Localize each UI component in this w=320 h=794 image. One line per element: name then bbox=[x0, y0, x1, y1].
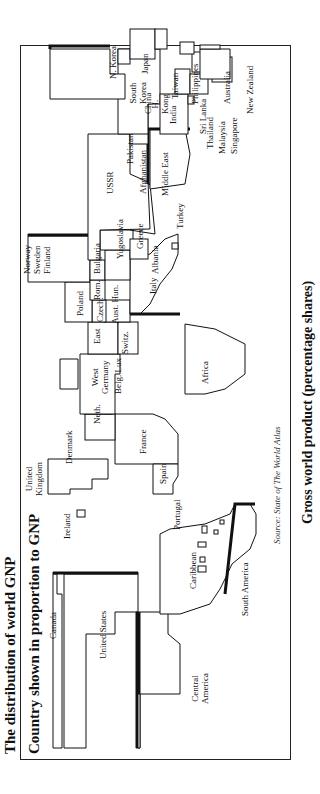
source-note: Source: State of The World Atlas bbox=[272, 427, 282, 544]
label-west-germany: WestGermany bbox=[90, 361, 110, 395]
region-caribbean-1 bbox=[198, 566, 206, 572]
region-philippines bbox=[180, 42, 194, 54]
figure-caption: Gross world product (percentage shares) bbox=[300, 281, 316, 524]
label-canada: Canada bbox=[48, 612, 58, 639]
label-ussr: USSR bbox=[105, 171, 115, 194]
label-taiwan: Taiwan bbox=[170, 73, 180, 99]
label-yugoslavia: Yugoslavia bbox=[115, 219, 125, 259]
label-denmark: Denmark bbox=[64, 431, 74, 465]
label-belg-lux: Belg. Lux bbox=[113, 358, 123, 394]
label-greece: Greece bbox=[135, 224, 145, 249]
region-denmark bbox=[60, 359, 78, 389]
region-h-kong bbox=[155, 29, 167, 49]
cartogram-figure: The distribution of world GNP Country sh… bbox=[0, 0, 320, 794]
label-italy: Italy bbox=[148, 278, 158, 295]
region-uk bbox=[48, 459, 108, 494]
label-poland: Poland bbox=[75, 291, 85, 316]
label-turkey: Turkey bbox=[175, 203, 185, 229]
world-gnp-cartogram bbox=[0, 0, 320, 794]
label-malaysia: Malaysia bbox=[217, 121, 227, 154]
label-australia: Australia bbox=[222, 71, 232, 104]
label-rom: Rom. bbox=[92, 280, 102, 300]
label-aust-hun: Aust. Hun. bbox=[110, 285, 120, 324]
region-africa bbox=[185, 324, 245, 394]
region-canada bbox=[53, 574, 62, 748]
label-albania: Albania bbox=[150, 246, 160, 275]
label-spain: Spain bbox=[158, 463, 168, 484]
label-france: France bbox=[138, 430, 148, 455]
region-central-america bbox=[138, 612, 180, 748]
label-africa: Africa bbox=[200, 361, 210, 384]
label-n-korea: N. Korea bbox=[108, 46, 118, 79]
region-n-korea bbox=[118, 49, 130, 64]
label-czech: Czech. bbox=[95, 297, 105, 322]
label-singapore: Singapore bbox=[229, 118, 239, 155]
label-uk: UnitedKingdom bbox=[24, 462, 44, 496]
region-united-states bbox=[64, 574, 138, 748]
label-philippines: Philippines bbox=[190, 63, 200, 104]
label-neth: Neth. bbox=[92, 404, 102, 424]
label-central-america: CentralAmerica bbox=[190, 673, 210, 704]
label-middle-east: Middle East bbox=[160, 152, 170, 196]
label-portugal: Portugal bbox=[172, 500, 182, 531]
label-east: East bbox=[92, 329, 102, 345]
region-new-zealand bbox=[200, 45, 220, 49]
label-pakistan: Pakistan bbox=[125, 134, 135, 165]
label-south-korea: SouthKorea bbox=[128, 82, 148, 104]
label-caribbean: Caribbean bbox=[188, 552, 198, 589]
label-ireland: Ireland bbox=[62, 514, 72, 539]
region-middle-east bbox=[150, 129, 190, 189]
label-h-kong: H.Kong bbox=[150, 94, 170, 114]
label-south-america: South America bbox=[240, 562, 250, 616]
label-new-zealand: New Zealand bbox=[245, 66, 255, 114]
label-switz: Switz. bbox=[120, 331, 130, 354]
label-nordic: NorwaySwedenFinland bbox=[22, 245, 52, 274]
label-bulgaria: Bulgaria bbox=[92, 243, 102, 274]
label-thailand: Thailand bbox=[205, 117, 215, 149]
label-afghanistan: Afghanistan bbox=[138, 150, 148, 194]
label-united-states: United States bbox=[98, 611, 108, 659]
region-ireland bbox=[77, 510, 85, 517]
label-japan: Japan bbox=[140, 54, 150, 75]
